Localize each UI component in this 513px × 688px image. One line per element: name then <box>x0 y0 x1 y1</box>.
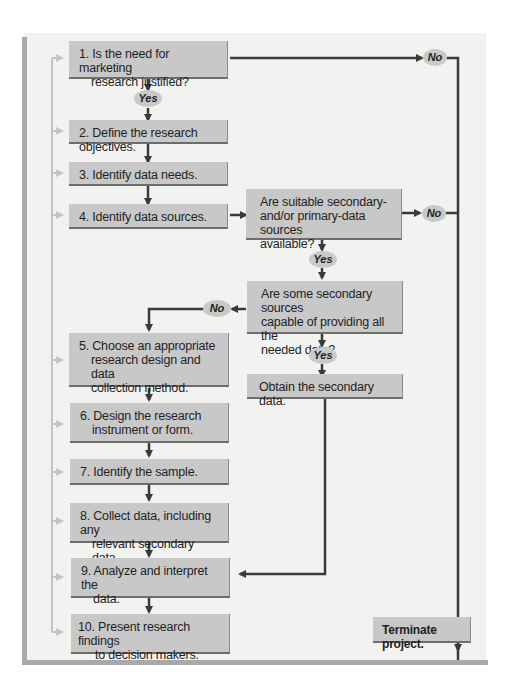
decision-1-line-3: available? <box>260 237 393 251</box>
step-6-line-2: instrument or form. <box>80 423 220 437</box>
step-6: 6. Design the research instrument or for… <box>70 403 229 443</box>
step-2-text: 2. Define the research objectives. <box>79 126 219 154</box>
step-1-line-1: 1. Is the need for marketing <box>79 47 219 75</box>
step-9: 9. Analyze and interpret the data. <box>71 558 230 598</box>
step-7: 7. Identify the sample. <box>70 459 229 485</box>
arrow-obtain-9 <box>240 398 325 574</box>
step-2: 2. Define the research objectives. <box>69 120 228 144</box>
step-3-text: 3. Identify data needs. <box>79 168 219 182</box>
no-line-to-terminate <box>446 58 458 660</box>
feedback-loop <box>52 58 62 632</box>
step-9-line-2: data. <box>81 592 221 606</box>
step-5: 5. Choose an appropriate research design… <box>69 333 229 387</box>
obtain-secondary-text: Obtain the secondary data. <box>259 380 394 408</box>
decision-secondary-sufficient: Are some secondary sources capable of pr… <box>247 281 403 334</box>
yes-label-1: Yes <box>134 90 162 107</box>
step-5-line-1: 5. Choose an appropriate <box>79 339 220 353</box>
decision-2-line-1: Are some secondary sources <box>261 287 394 315</box>
step-4-text: 4. Identify data sources. <box>79 210 219 224</box>
terminate-project: Terminate project. <box>373 617 471 643</box>
step-3: 3. Identify data needs. <box>69 162 228 186</box>
no-label-3: No <box>203 300 231 317</box>
decision-sources-available: Are suitable secondary- and/or primary-d… <box>246 189 402 240</box>
step-9-line-1: 9. Analyze and interpret the <box>81 564 221 592</box>
decision-1-line-2: and/or primary-data sources <box>260 209 393 237</box>
step-5-line-3: collection method. <box>79 381 220 395</box>
step-5-line-2: research design and data <box>79 353 220 381</box>
decision-2-line-2: capable of providing all the <box>261 315 394 343</box>
step-8: 8. Collect data, including any relevant … <box>70 503 229 543</box>
step-4: 4. Identify data sources. <box>69 204 228 229</box>
step-10-line-1: 10. Present research findings <box>78 620 221 648</box>
terminate-text: Terminate project. <box>382 623 462 651</box>
yes-label-3: Yes <box>309 347 337 364</box>
arrow-no-5 <box>149 309 206 330</box>
step-1: 1. Is the need for marketing research ju… <box>69 41 228 79</box>
step-7-text: 7. Identify the sample. <box>80 465 220 479</box>
step-10-line-2: to decision makers. <box>78 648 221 662</box>
obtain-secondary-data: Obtain the secondary data. <box>247 374 403 399</box>
step-6-line-1: 6. Design the research <box>80 409 220 423</box>
step-10: 10. Present research findings to decisio… <box>71 614 230 654</box>
step-8-line-1: 8. Collect data, including any <box>80 509 220 537</box>
decision-1-line-1: Are suitable secondary- <box>260 195 393 209</box>
no-label-2: No <box>422 205 446 222</box>
step-1-line-2: research justified? <box>79 75 219 89</box>
no-label-1: No <box>423 49 447 66</box>
yes-label-2: Yes <box>309 251 337 268</box>
